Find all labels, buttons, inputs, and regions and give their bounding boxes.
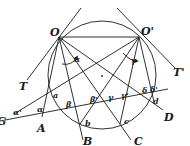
label-arrow-Oprime: γ: [131, 55, 137, 65]
label-c: c: [124, 116, 129, 126]
label-D: D: [163, 111, 174, 124]
ray-O-B: [59, 37, 83, 140]
label-beta: β: [65, 99, 72, 109]
label-B: B: [82, 135, 92, 146]
label-C: C: [134, 135, 143, 146]
label-G: G: [0, 115, 6, 128]
label-arrow-O: α: [74, 54, 80, 64]
tangent-line-T: [27, 8, 81, 80]
label-delta-prime: δ': [149, 84, 158, 94]
ray-O-C: [59, 37, 131, 140]
label-a: a: [53, 90, 58, 100]
label-alpha: α: [37, 104, 43, 114]
label-d: d: [153, 96, 159, 106]
circle-center-dot: [101, 75, 103, 77]
label-A: A: [36, 122, 46, 135]
label-gamma-prime: γ': [121, 90, 129, 100]
label-beta-prime: β': [89, 94, 98, 104]
projective-geometry-diagram: O O' T T' A B C D G a b c d α' α β β' γ …: [0, 0, 190, 146]
ray-Oprime-c: [120, 37, 139, 124]
label-O: O: [50, 26, 60, 39]
ray-Oprime-b: [80, 37, 139, 124]
tangent-line-T-prime: [117, 8, 175, 68]
label-gamma: γ: [108, 92, 114, 102]
ray-Oprime-a: [14, 37, 139, 114]
label-T: T: [19, 80, 28, 93]
label-alpha-prime: α': [13, 107, 22, 117]
label-b: b: [85, 118, 91, 128]
label-O-prime: O': [141, 25, 154, 38]
label-delta: δ: [141, 85, 148, 95]
label-T-prime: T': [173, 66, 185, 79]
